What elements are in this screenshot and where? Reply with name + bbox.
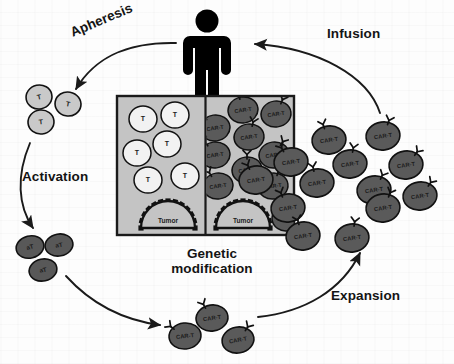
genetic-modification-arrow [66,276,160,325]
patient-figure [183,10,231,102]
modified-car-t-cell: CAR-T [220,321,256,355]
cell-body [401,180,439,212]
stage-label-genetic-modification: Genetic modification [164,246,260,276]
tumor-t-cell: T [134,167,162,193]
cell-body [27,256,59,283]
activated-t-cell: aT [14,233,46,261]
cell-body [171,163,199,189]
cell-body [43,232,74,259]
cell-body [161,102,189,128]
tumor-t-cell: T [171,163,199,189]
activation-arrow [21,143,33,228]
tumor-t-cell: T [153,131,181,157]
activated-t-cell: aT [27,256,59,283]
cell-body [27,109,55,136]
stage-label-expansion: Expansion [331,288,400,303]
tumor-t-cell: T [161,102,189,128]
car-t-therapy-diagram: TTTTTTTumor CAR-TCAR-TCAR-TCAR-TCAR-TCAR… [0,0,454,364]
stage-label-activation: Activation [22,169,88,184]
tumor-t-cell: T [123,140,151,166]
modified-car-t-cell: CAR-T [165,321,202,351]
apheresis-t-cell: T [53,90,83,118]
cell-body [134,167,162,193]
cell-body [220,324,256,355]
expanded-car-t-cell: CAR-T [401,177,439,213]
cell-body [123,140,151,166]
expanded-car-t-cell: CAR-T [387,146,425,181]
modified-car-t-cells: CAR-TCAR-TCAR-T [165,299,256,356]
expanded-car-t-cell: CAR-T [310,119,348,156]
expanded-car-t-cell: CAR-T [333,217,371,254]
stage-label-infusion: Infusion [327,26,380,41]
apheresis-arrow [76,43,176,89]
modified-car-t-cell: CAR-T [194,299,229,333]
cell-body [194,303,229,333]
apheresis-t-cell: T [27,109,55,136]
cell-body [364,120,402,152]
cell-body [333,222,371,254]
cell-body [387,149,425,181]
expansion-arrow [258,253,360,317]
apheresis-t-cell: T [24,83,54,112]
apheresis-t-cells: TTT [24,83,83,136]
expanded-car-t-cell: CAR-T [364,115,402,152]
cell-body [14,233,46,261]
cell-body [24,83,54,112]
cell-body [153,131,181,157]
activated-t-cell: aT [43,232,74,259]
tumor-t-cell: T [129,106,157,132]
cell-body [168,321,203,350]
cell-body [53,90,83,118]
cell-body [129,106,157,132]
